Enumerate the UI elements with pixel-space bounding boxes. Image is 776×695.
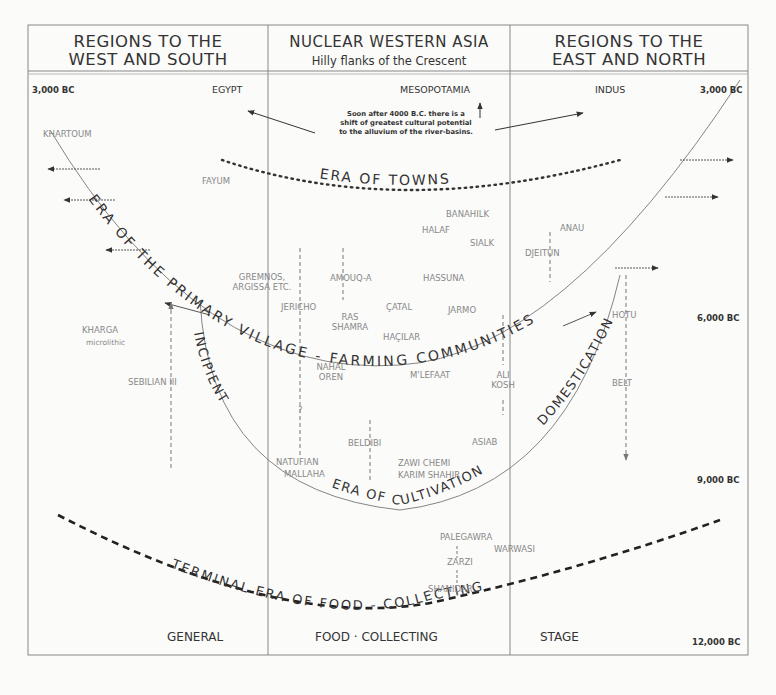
site-hotu: HOTU <box>612 310 637 320</box>
site-gremnos: GREMNOS, ARGISSA ETC. <box>232 272 292 292</box>
site-amouq: AMOUQ-A <box>330 273 372 283</box>
header-west-line2: WEST AND SOUTH <box>28 51 268 69</box>
site-mlefaat: M'LEFAAT <box>410 370 450 380</box>
site-jericho: JERICHO <box>281 302 316 312</box>
site-ali-kosh: ALI KOSH <box>489 370 517 390</box>
site-ras-shamra: RAS SHAMRA <box>330 312 370 332</box>
site-zawi-chemi: ZAWI CHEMI <box>398 458 450 468</box>
date-top-left: 3,000 BC <box>32 85 75 95</box>
site-belt: BELT <box>612 378 632 388</box>
era-cultivation-label: ERA OF CULTIVATION <box>330 462 486 509</box>
site-jarmo: JARMO <box>448 305 476 315</box>
site-asiab: ASIAB <box>472 437 497 447</box>
site-shanidar: SHANIDAR <box>428 584 473 594</box>
site-sialk: SIALK <box>470 238 494 248</box>
date-top-right: 3,000 BC <box>700 85 743 95</box>
stage-general: GENERAL <box>167 630 223 644</box>
site-beldibi: BELDIBI <box>348 438 381 448</box>
date-bottom-right: 12,000 BC <box>692 637 740 647</box>
date-lower-right: 9,000 BC <box>697 475 740 485</box>
site-khartoum: KHARTOUM <box>43 129 92 139</box>
header-nuclear-subtitle: Hilly flanks of the Crescent <box>268 53 510 69</box>
chronology-diagram: ERA OF TOWNS ERA OF THE PRIMARY VILLAGE … <box>0 0 776 695</box>
site-djeitun: DJEITUN <box>525 248 560 258</box>
site-warwasi: WARWASI <box>494 544 535 554</box>
site-question: ? <box>298 405 303 415</box>
header-east: REGIONS TO THE EAST AND NORTH <box>510 33 748 69</box>
era-of-towns-label: ERA OF TOWNS <box>319 165 452 188</box>
stage-food-collecting: FOOD · COLLECTING <box>315 630 438 644</box>
era-domestication-label: DOMESTICATION <box>534 315 616 428</box>
header-nuclear: NUCLEAR WESTERN ASIA Hilly flanks of the… <box>268 33 510 69</box>
header-west-line1: REGIONS TO THE <box>28 33 268 51</box>
date-mid-right: 6,000 BC <box>697 313 740 323</box>
site-sebilian: SEBILIAN III <box>128 377 177 387</box>
site-mallaha: MALLAHA <box>284 469 325 479</box>
site-fayum: FAYUM <box>202 176 230 186</box>
site-natufian: NATUFIAN <box>276 457 319 467</box>
header-nuclear-title: NUCLEAR WESTERN ASIA <box>268 33 510 51</box>
header-east-line2: EAST AND NORTH <box>510 51 748 69</box>
site-halaf: HALAF <box>422 225 450 235</box>
region-egypt: EGYPT <box>212 84 242 95</box>
site-palegawra: PALEGAWRA <box>440 532 492 542</box>
mesopotamia-note: Soon after 4000 B.C. there is a shift of… <box>318 110 494 137</box>
era-incipient-label: INCIPIENT <box>191 330 232 406</box>
site-kharga-microlithic: microlithic <box>86 338 125 348</box>
site-hacilar: HAÇILAR <box>383 332 420 342</box>
region-indus: INDUS <box>595 84 625 95</box>
site-nahal-oren: NAHAL OREN <box>314 362 348 382</box>
stage-stage: STAGE <box>540 630 579 644</box>
region-mesopotamia: MESOPOTAMIA <box>400 84 470 95</box>
site-kharga: KHARGA <box>82 325 118 335</box>
site-zarzi: ZARZI <box>447 557 473 567</box>
site-anau: ANAU <box>560 223 584 233</box>
site-karim-shahir: KARIM SHAHIR <box>398 470 460 480</box>
site-catal: ÇATAL <box>386 302 412 312</box>
header-west: REGIONS TO THE WEST AND SOUTH <box>28 33 268 69</box>
site-banahilk: BANAHILK <box>446 209 489 219</box>
header-east-line1: REGIONS TO THE <box>510 33 748 51</box>
site-hassuna: HASSUNA <box>423 273 464 283</box>
